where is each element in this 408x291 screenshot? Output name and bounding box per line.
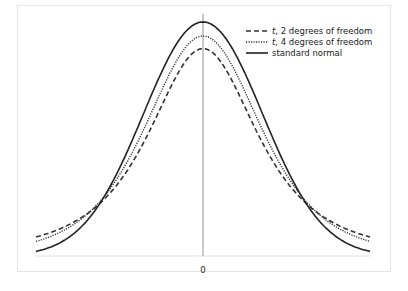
legend-item-t2: t, 2 degrees of freedom [272,26,372,36]
legend: t, 2 degrees of freedom t, 4 degrees of … [246,26,372,58]
x-tick-zero: 0 [200,265,205,275]
legend-item-t4: t, 4 degrees of freedom [272,37,372,47]
chart-container: 0 t, 2 degrees of freedom t, 4 degrees o… [0,0,408,291]
plot-area: 0 t, 2 degrees of freedom t, 4 degrees o… [0,0,408,291]
legend-item-normal: standard normal [272,48,342,58]
